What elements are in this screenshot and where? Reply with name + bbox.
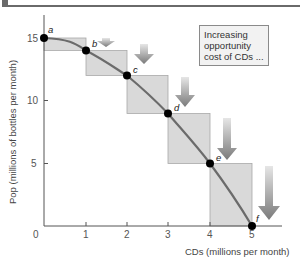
point-c	[123, 72, 131, 80]
opportunity-cost-steps	[44, 38, 252, 226]
x-tick-labels: 0 1 2 3 4 5	[33, 229, 255, 240]
svg-text:15: 15	[27, 33, 39, 44]
point-e	[206, 160, 214, 168]
svg-text:4: 4	[207, 229, 213, 240]
arrow-down-icon	[134, 44, 154, 64]
svg-text:3: 3	[165, 229, 171, 240]
svg-text:a: a	[48, 24, 53, 35]
svg-text:f: f	[256, 213, 260, 224]
y-tick-labels: 5 10 15	[27, 33, 39, 169]
svg-text:b: b	[92, 38, 97, 49]
point-a	[40, 34, 48, 42]
x-axis-label: CDs (millions per month)	[185, 246, 290, 257]
svg-text:0: 0	[33, 229, 39, 240]
arrow-down-icon	[258, 166, 280, 220]
arrow-down-icon	[97, 38, 115, 47]
svg-text:5: 5	[249, 229, 255, 240]
annotation-callout: Increasing opportunity cost of CDs ...	[199, 25, 269, 66]
svg-text:2: 2	[124, 229, 130, 240]
point-b	[82, 47, 90, 55]
svg-text:1: 1	[83, 229, 89, 240]
svg-text:d: d	[174, 102, 180, 113]
svg-text:c: c	[133, 64, 138, 75]
svg-text:10: 10	[27, 95, 39, 106]
point-f	[248, 222, 256, 230]
y-axis-label: Pop (millions of bottles per month)	[7, 60, 18, 204]
point-d	[164, 110, 172, 118]
svg-text:e: e	[216, 152, 221, 163]
svg-text:5: 5	[31, 158, 37, 169]
